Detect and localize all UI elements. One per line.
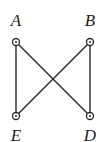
graph-diagram: A B E D: [0, 0, 106, 141]
node-a: A: [10, 11, 22, 46]
edges: [16, 42, 90, 116]
vertex-d-dot-icon: [89, 115, 91, 117]
vertex-e-dot-icon: [15, 115, 17, 117]
vertex-d-label: D: [83, 126, 97, 141]
graph-svg: A B E D: [0, 0, 106, 141]
vertex-e-label: E: [10, 126, 22, 141]
nodes: A B E D: [10, 11, 97, 141]
vertex-a-dot-icon: [15, 41, 17, 43]
node-e: E: [10, 113, 22, 142]
node-d: D: [83, 113, 97, 142]
vertex-a-label: A: [10, 11, 22, 30]
node-b: B: [85, 11, 96, 46]
vertex-b-label: B: [85, 11, 96, 30]
vertex-b-dot-icon: [89, 41, 91, 43]
